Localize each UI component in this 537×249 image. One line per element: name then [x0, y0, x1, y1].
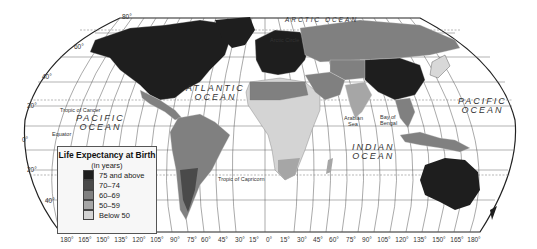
- lon-label: 150°: [96, 236, 109, 243]
- lon-label: 15°: [280, 236, 290, 243]
- legend-label: 70–74: [99, 181, 120, 190]
- legend-swatch: [83, 210, 94, 220]
- legend-swatch: [83, 180, 94, 190]
- lon-label: 75°: [187, 236, 197, 243]
- lon-label: 135°: [114, 236, 127, 243]
- lon-label: 120°: [132, 236, 145, 243]
- legend-swatch: [83, 190, 94, 200]
- lon-label: 45°: [218, 236, 228, 243]
- legend-label: 50–59: [99, 201, 120, 210]
- legend-row: 60–69: [83, 190, 156, 200]
- pacific-east-line2: OCEAN: [461, 105, 503, 115]
- tropic-of-capricorn-label: Tropic of Capricorn: [218, 177, 265, 183]
- arctic-ocean-label: ARCTIC OCEAN: [285, 17, 358, 24]
- indian-ocean-label: INDIANOCEAN: [352, 143, 395, 161]
- legend: Life Expectancy at Birth (in years) 75 a…: [57, 146, 157, 234]
- lon-label: 75°: [346, 236, 356, 243]
- lon-label: 105°: [377, 236, 390, 243]
- pacific-west-line2: OCEAN: [79, 122, 121, 132]
- lon-label: 180°: [60, 236, 73, 243]
- lat-label-40n: 40°: [42, 74, 52, 81]
- lon-label: 105°: [150, 236, 163, 243]
- lon-label: 30°: [235, 236, 245, 243]
- lon-label: 90°: [170, 236, 180, 243]
- atlantic-ocean-label: ATLANTICOCEAN: [186, 84, 245, 102]
- pacific-ocean-west-label: PACIFICOCEAN: [76, 114, 125, 132]
- legend-label: 60–69: [99, 191, 120, 200]
- lon-label: 90°: [362, 236, 372, 243]
- legend-row: 50–59: [83, 200, 156, 210]
- lon-label: 120°: [395, 236, 408, 243]
- legend-label: Below 50: [99, 211, 130, 220]
- lon-label: 60°: [201, 236, 211, 243]
- lat-label-0: 0°: [22, 137, 28, 144]
- legend-row: Below 50: [83, 210, 156, 220]
- legend-label: 75 and above: [99, 171, 144, 180]
- lon-label: 165°: [450, 236, 463, 243]
- atlantic-line2: OCEAN: [194, 92, 236, 102]
- pacific-ocean-east-label: PACIFICOCEAN: [458, 97, 507, 115]
- lat-label-60: 60°: [74, 44, 84, 51]
- lon-label: 165°: [78, 236, 91, 243]
- lon-label: 135°: [413, 236, 426, 243]
- lat-label-20n: 20°: [27, 103, 37, 110]
- arctic-circle-label: Arctic Circle: [270, 38, 299, 44]
- lon-label: 30°: [297, 236, 307, 243]
- lon-label: 45°: [313, 236, 323, 243]
- lon-label: 60°: [329, 236, 339, 243]
- legend-row: 70–74: [83, 180, 156, 190]
- legend-rows: 75 and above 70–74 60–69 50–59 Below 50: [58, 170, 156, 220]
- indian-line2: OCEAN: [352, 151, 394, 161]
- equator-label: Equator: [52, 132, 71, 138]
- lon-label: 150°: [432, 236, 445, 243]
- legend-swatch: [83, 170, 94, 180]
- lon-label: 180°: [467, 236, 480, 243]
- arabian-sea-line2: Sea: [344, 121, 358, 127]
- lat-label-40s: 40°: [45, 198, 55, 205]
- lon-label: 0°: [266, 236, 272, 243]
- lat-label-20s: 20°: [27, 167, 37, 174]
- legend-subtitle: (in years): [58, 161, 156, 170]
- bay-of-bengal-line2: Bengal: [380, 120, 397, 126]
- legend-title: Life Expectancy at Birth: [58, 150, 156, 160]
- legend-swatch: [83, 200, 94, 210]
- lon-label: 15°: [249, 236, 259, 243]
- lat-label-80: 80°: [122, 14, 132, 21]
- legend-row: 75 and above: [83, 170, 156, 180]
- arabian-sea-label: ArabianSea: [344, 116, 363, 127]
- bay-of-bengal-label: Bay ofBengal: [380, 115, 397, 126]
